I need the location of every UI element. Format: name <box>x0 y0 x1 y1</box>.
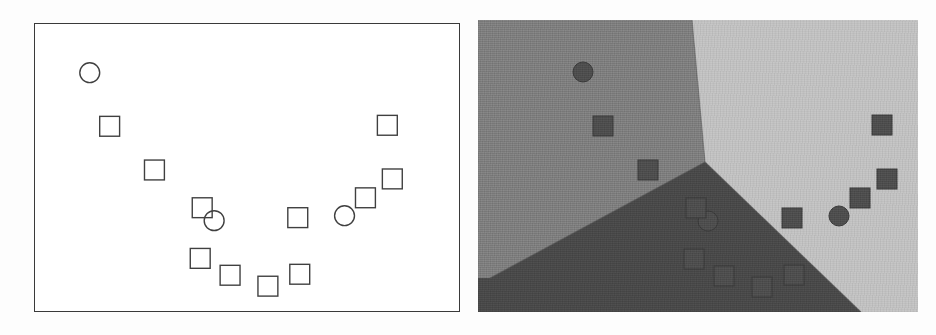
data-point-square <box>288 208 308 228</box>
data-point-square <box>752 277 772 297</box>
data-point-circle <box>829 206 849 226</box>
data-point-square <box>850 188 870 208</box>
data-point-square <box>192 198 212 218</box>
training-data-plot <box>35 24 459 311</box>
decision-regions-plot <box>478 20 918 312</box>
data-point-square <box>290 264 310 284</box>
data-point-square <box>872 115 892 135</box>
data-point-square <box>190 248 210 268</box>
data-point-circle <box>335 206 355 226</box>
decision-regions-panel <box>478 20 918 312</box>
data-point-square <box>144 160 164 180</box>
data-point-square <box>784 265 804 285</box>
data-point-square <box>714 266 734 286</box>
data-point-circle <box>80 63 100 83</box>
data-point-square <box>220 265 240 285</box>
data-point-square <box>100 116 120 136</box>
data-point-square <box>377 115 397 135</box>
data-point-square <box>382 169 402 189</box>
data-point-square <box>593 116 613 136</box>
data-point-square <box>258 276 278 296</box>
training-data-panel <box>34 23 460 312</box>
data-point-square <box>638 160 658 180</box>
data-point-square <box>684 249 704 269</box>
data-point-square <box>782 208 802 228</box>
data-point-square <box>355 188 375 208</box>
data-point-circle <box>573 62 593 82</box>
data-point-circle <box>204 211 224 231</box>
data-point-square <box>877 169 897 189</box>
figure-root <box>0 0 936 335</box>
data-point-square <box>686 198 706 218</box>
